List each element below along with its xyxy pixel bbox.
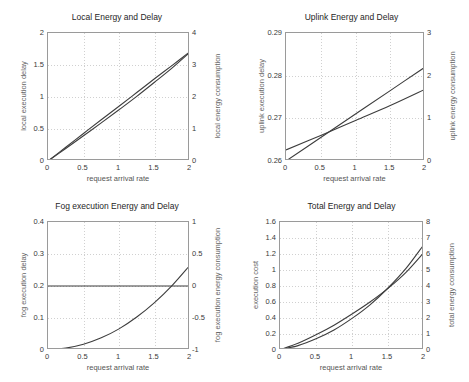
plot-title: Total Energy and Delay [234,201,469,211]
series-line [286,89,424,150]
subplot-total-energy-and-delay: Total Energy and Delay00.511.5200.20.40.… [234,191,469,382]
y-tick-label-right: 3 [427,28,431,37]
y-tick-label-left: 0.6 [266,297,276,306]
y-tick-label-left: 0 [272,345,276,354]
y-axis-label-left: fog execution delay [19,253,28,318]
y-tick-label-left: 0.27 [267,113,282,122]
plot-title: Fog execution Energy and Delay [0,201,234,211]
y-tick-label-right: 1 [192,217,196,226]
x-tick-label: 1 [352,163,356,172]
y-tick-label-right: 1 [426,329,430,338]
plot-title: Uplink Energy and Delay [234,12,469,22]
y-tick-label-left: 0.29 [267,28,282,37]
y-tick-label-left: 0.4 [266,313,276,322]
y-tick-label-right: 3 [192,60,196,69]
subplot-fog-execution-energy-and-delay: Fog execution Energy and Delay00.511.520… [0,191,234,382]
y-axis-label-right: uplink energy consumption [448,51,457,140]
x-tick-label: 1 [116,352,120,361]
x-axis-label: request arrival rate [320,363,383,372]
x-tick-label: 2 [421,352,425,361]
y-tick-label-left: 1.5 [34,60,44,69]
y-tick-label-left: 0.2 [34,281,44,290]
x-axis-label: request arrival rate [87,174,150,183]
y-tick-label-left: 1.4 [266,233,276,242]
y-tick-label-left: 0.2 [266,329,276,338]
y-axis-label-left: execution cost [251,261,260,309]
y-tick-label-right: 0 [427,156,431,165]
x-tick-label: 0.5 [77,352,87,361]
y-tick-label-left: 0.5 [34,124,44,133]
y-axis-label-right: fog execution energy consumption [213,228,222,342]
y-tick-label-right: 5 [426,265,430,274]
series-layer [48,33,189,160]
series-line [48,52,189,160]
y-tick-label-right: 2 [426,313,430,322]
x-tick-label: 1.5 [148,163,158,172]
series-line [280,252,423,349]
plot-area [47,221,189,349]
x-tick-label: 2 [187,352,191,361]
plot-area [279,221,423,349]
y-tick-label-left: 0.28 [267,70,282,79]
plot-area [285,32,424,160]
y-tick-label-right: 0 [192,156,196,165]
x-tick-label: 1 [349,352,353,361]
series-line [286,67,424,160]
x-tick-label: 0.5 [77,163,87,172]
y-tick-label-left: 0 [40,156,44,165]
y-tick-label-left: 1.2 [266,249,276,258]
y-tick-label-right: 0 [192,281,196,290]
x-tick-label: 2 [187,163,191,172]
y-tick-label-right: 0 [426,345,430,354]
y-axis-label-right: total energy consumption [447,243,456,327]
x-tick-label: 0 [45,352,49,361]
y-tick-label-right: 7 [426,233,430,242]
x-tick-label: 1.5 [382,352,392,361]
y-tick-label-right: 0.5 [192,249,202,258]
x-axis-label: request arrival rate [87,363,150,372]
x-tick-label: 0 [45,163,49,172]
y-tick-label-left: 1.6 [266,217,276,226]
y-tick-label-right: 1 [427,113,431,122]
y-axis-label-left: local execution delay [19,61,28,131]
y-tick-label-left: 0.3 [34,249,44,258]
y-tick-label-right: 4 [192,28,196,37]
series-line [48,265,189,349]
y-tick-label-right: 3 [426,297,430,306]
x-axis-label: request arrival rate [323,174,386,183]
y-tick-label-right: 2 [192,92,196,101]
x-tick-label: 2 [422,163,426,172]
x-tick-label: 0 [277,352,281,361]
subplot-uplink-energy-and-delay: Uplink Energy and Delay00.511.520.260.27… [234,0,469,191]
y-axis-label-left: uplink execution delay [257,59,266,133]
x-tick-label: 1.5 [384,163,394,172]
y-tick-label-left: 2 [40,28,44,37]
y-tick-label-right: -0.5 [192,313,205,322]
series-layer [48,222,189,349]
x-tick-label: 0 [283,163,287,172]
y-tick-label-right: 1 [192,124,196,133]
y-tick-label-left: 1 [40,92,44,101]
y-tick-label-right: 8 [426,217,430,226]
y-tick-label-left: 0.26 [267,156,282,165]
y-tick-label-left: 1 [272,265,276,274]
x-tick-label: 1.5 [148,352,158,361]
y-tick-label-left: 0 [40,345,44,354]
plot-area [47,32,189,160]
y-tick-label-right: -1 [192,345,199,354]
x-tick-label: 0.5 [315,163,325,172]
series-layer [280,222,423,349]
y-tick-label-right: 2 [427,70,431,79]
plot-title: Local Energy and Delay [0,12,234,22]
figure-canvas: Local Energy and Delay00.511.5200.511.52… [0,0,469,382]
y-tick-label-left: 0.4 [34,217,44,226]
y-tick-label-left: 0.1 [34,313,44,322]
series-layer [286,33,424,160]
series-line [280,244,423,349]
y-axis-label-right: local energy consumption [213,53,222,138]
y-tick-label-right: 6 [426,249,430,258]
subplot-local-energy-and-delay: Local Energy and Delay00.511.5200.511.52… [0,0,234,191]
y-tick-label-left: 0.8 [266,281,276,290]
x-tick-label: 0.5 [310,352,320,361]
y-tick-label-right: 4 [426,281,430,290]
